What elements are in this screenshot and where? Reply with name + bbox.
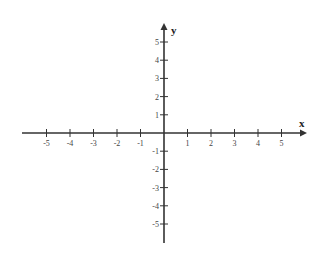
x-tick-label: 5 bbox=[280, 139, 284, 148]
x-axis-arrow-icon bbox=[300, 130, 307, 137]
coordinate-plane: x y -5-4-3-2-112345 54321-1-2-3-4-5 bbox=[0, 0, 323, 255]
x-tick-label: 2 bbox=[209, 139, 213, 148]
y-axis-arrow-icon bbox=[161, 23, 168, 30]
x-tick-label: 3 bbox=[233, 139, 237, 148]
y-tick-label: 5 bbox=[155, 38, 159, 47]
y-tick-label: -4 bbox=[152, 202, 159, 211]
x-tick-label: -1 bbox=[137, 139, 144, 148]
y-axis-label: y bbox=[171, 24, 177, 36]
y-tick-label: -2 bbox=[152, 165, 159, 174]
y-tick-label: 1 bbox=[155, 111, 159, 120]
x-tick-label: -2 bbox=[114, 139, 121, 148]
y-tick-label: 4 bbox=[155, 56, 159, 65]
y-tick-label: -3 bbox=[152, 184, 159, 193]
x-tick-label: 4 bbox=[256, 139, 260, 148]
y-tick-label: -1 bbox=[152, 147, 159, 156]
y-tick-label: 3 bbox=[155, 74, 159, 83]
x-tick-label: -3 bbox=[90, 139, 97, 148]
x-tick-label: 1 bbox=[186, 139, 190, 148]
y-tick-label: 2 bbox=[155, 93, 159, 102]
x-axis-label: x bbox=[299, 117, 305, 129]
y-tick-label: -5 bbox=[152, 220, 159, 229]
x-tick-label: -5 bbox=[43, 139, 50, 148]
x-tick-label: -4 bbox=[67, 139, 74, 148]
